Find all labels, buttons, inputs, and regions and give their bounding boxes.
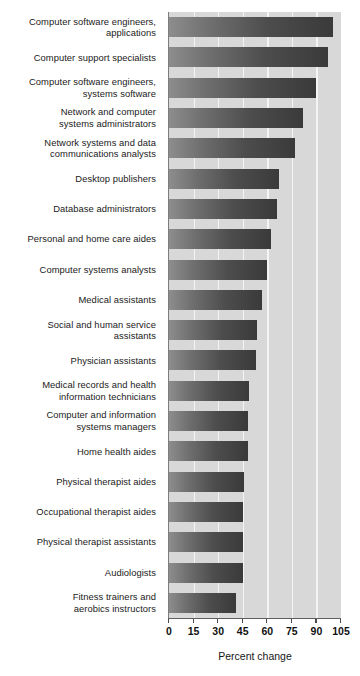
category-label: Computer support specialists bbox=[0, 52, 156, 64]
gridline bbox=[243, 12, 244, 618]
category-label: Physical therapist assistants bbox=[0, 536, 156, 548]
bar bbox=[169, 502, 243, 522]
category-label: Computer software engineers, systems sof… bbox=[0, 76, 156, 99]
x-tick-label: 105 bbox=[332, 625, 350, 637]
bar-row bbox=[169, 532, 341, 552]
x-tick-mark bbox=[291, 619, 292, 623]
category-label: Physical therapist aides bbox=[0, 476, 156, 488]
bar bbox=[169, 411, 248, 431]
bar-row bbox=[169, 593, 341, 613]
category-label: Network systems and data communications … bbox=[0, 137, 156, 160]
category-label: Fitness trainers and aerobics instructor… bbox=[0, 591, 156, 614]
x-tick-label: 30 bbox=[212, 625, 224, 637]
bar bbox=[169, 532, 243, 552]
bar-row bbox=[169, 47, 341, 67]
x-axis-title: Percent change bbox=[169, 650, 341, 662]
category-label: Computer and information systems manager… bbox=[0, 409, 156, 432]
x-tick-label: 15 bbox=[188, 625, 200, 637]
bar-row bbox=[169, 320, 341, 340]
category-label: Medical assistants bbox=[0, 294, 156, 306]
bar bbox=[169, 169, 279, 189]
bar bbox=[169, 381, 249, 401]
x-tick-mark bbox=[168, 619, 169, 623]
bar-row bbox=[169, 17, 341, 37]
x-tick-mark bbox=[242, 619, 243, 623]
x-tick-label: 90 bbox=[311, 625, 323, 637]
bar bbox=[169, 563, 243, 583]
bar bbox=[169, 17, 333, 37]
category-label: Physician assistants bbox=[0, 355, 156, 367]
x-tick-label: 45 bbox=[237, 625, 249, 637]
bar-row bbox=[169, 441, 341, 461]
bar-row bbox=[169, 290, 341, 310]
bar-chart: Computer software engineers, application… bbox=[0, 0, 360, 676]
bar-row bbox=[169, 108, 341, 128]
bar-row bbox=[169, 411, 341, 431]
bar bbox=[169, 350, 256, 370]
gridline bbox=[194, 12, 195, 618]
category-label: Home health aides bbox=[0, 446, 156, 458]
bar bbox=[169, 472, 244, 492]
category-label: Desktop publishers bbox=[0, 173, 156, 185]
category-label: Medical records and health information t… bbox=[0, 379, 156, 402]
bar-row bbox=[169, 229, 341, 249]
plot-area bbox=[169, 12, 341, 618]
x-tick-label: 75 bbox=[286, 625, 298, 637]
bar bbox=[169, 47, 328, 67]
bar-row bbox=[169, 260, 341, 280]
x-tick-mark bbox=[340, 619, 341, 623]
bar bbox=[169, 108, 303, 128]
category-label: Audiologists bbox=[0, 567, 156, 579]
bar-row bbox=[169, 350, 341, 370]
category-label: Computer software engineers, application… bbox=[0, 16, 156, 39]
gridline bbox=[292, 12, 293, 618]
bar bbox=[169, 441, 248, 461]
x-tick-mark bbox=[217, 619, 218, 623]
x-tick-label: 0 bbox=[166, 625, 172, 637]
x-tick-mark bbox=[266, 619, 267, 623]
category-label: Computer systems analysts bbox=[0, 264, 156, 276]
x-tick-mark bbox=[315, 619, 316, 623]
gridline bbox=[218, 12, 219, 618]
bar bbox=[169, 78, 316, 98]
category-label-column: Computer software engineers, application… bbox=[0, 12, 163, 618]
plot-left-border bbox=[168, 12, 169, 619]
gridline bbox=[316, 12, 317, 618]
bar-row bbox=[169, 381, 341, 401]
bar bbox=[169, 593, 236, 613]
bar bbox=[169, 199, 277, 219]
bar-row bbox=[169, 563, 341, 583]
bar-row bbox=[169, 199, 341, 219]
category-label: Network and computer systems administrat… bbox=[0, 106, 156, 129]
category-label: Occupational therapist aides bbox=[0, 506, 156, 518]
x-tick-mark bbox=[193, 619, 194, 623]
bar-row bbox=[169, 78, 341, 98]
category-label: Personal and home care aides bbox=[0, 233, 156, 245]
bar-row bbox=[169, 138, 341, 158]
bar bbox=[169, 138, 295, 158]
bar bbox=[169, 320, 257, 340]
bar-row bbox=[169, 472, 341, 492]
category-label: Database administrators bbox=[0, 203, 156, 215]
gridline bbox=[267, 12, 268, 618]
bar bbox=[169, 290, 262, 310]
category-label: Social and human service assistants bbox=[0, 319, 156, 342]
bar bbox=[169, 229, 271, 249]
bar-row bbox=[169, 502, 341, 522]
x-tick-label: 60 bbox=[261, 625, 273, 637]
bar bbox=[169, 260, 267, 280]
bar-row bbox=[169, 169, 341, 189]
